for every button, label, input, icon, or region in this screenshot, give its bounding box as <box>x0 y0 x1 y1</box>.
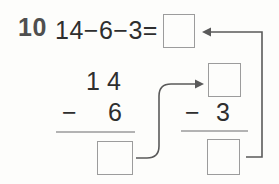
answer-box[interactable] <box>163 14 195 48</box>
worksheet-problem: 10 14−6−3= 14 − 6 − 3 <box>0 0 279 184</box>
step1-minus-sign: − <box>62 100 77 125</box>
step2-result-box[interactable] <box>207 139 240 175</box>
right-arrowhead-icon <box>195 80 204 89</box>
step1-minuend: 14 <box>86 69 128 94</box>
left-arrowhead-icon <box>202 28 211 37</box>
problem-number: 10 <box>18 15 47 40</box>
step1-result-box[interactable] <box>97 141 133 175</box>
step2-rule <box>181 130 248 132</box>
step1-rule <box>56 131 135 133</box>
step2-minus-sign: − <box>185 100 200 125</box>
step2-input-box[interactable] <box>208 63 241 97</box>
step1-subtrahend: 6 <box>108 100 122 125</box>
equation-text: 14−6−3= <box>55 18 158 43</box>
step2-subtrahend: 3 <box>216 100 230 125</box>
